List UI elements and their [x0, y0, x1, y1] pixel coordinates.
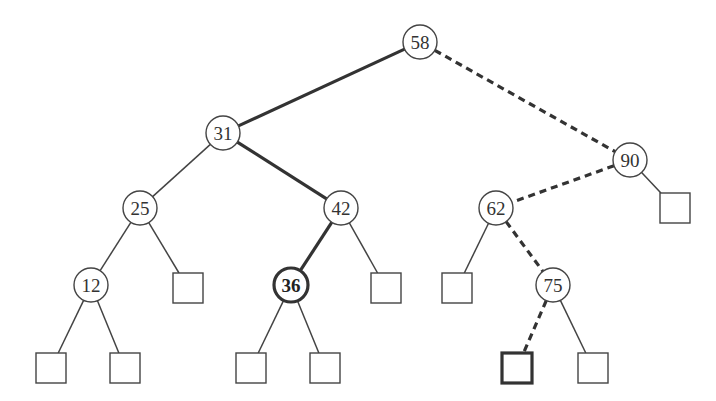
node-key-label: 62 — [487, 198, 506, 219]
leaf-square — [660, 193, 690, 223]
leaf-square — [110, 353, 140, 383]
bst-diagram: 583190254262123675 — [0, 0, 716, 401]
edge-n58-n31-bold — [238, 49, 404, 126]
edge-n75-l75r — [560, 300, 585, 353]
external-leaf-node — [310, 353, 340, 383]
external-leaf-node — [578, 353, 608, 383]
external-leaf-node — [236, 353, 266, 383]
edge-n62-l62l — [464, 223, 488, 273]
edge-n31-n25 — [153, 144, 211, 196]
leaf-square — [173, 273, 203, 303]
edge-n25-l25r — [149, 223, 179, 273]
leaf-square — [236, 353, 266, 383]
node-key-label: 12 — [82, 275, 101, 296]
tree-node-12: 12 — [74, 268, 108, 302]
node-key-label: 75 — [544, 275, 563, 296]
tree-node-36: 36 — [274, 268, 308, 302]
node-key-label: 42 — [332, 198, 351, 219]
edge-n90-n62-dashed — [512, 166, 614, 203]
edge-n42-l42r — [349, 223, 377, 273]
leaf-square — [310, 353, 340, 383]
node-key-label: 31 — [214, 123, 233, 144]
node-key-label: 58 — [411, 32, 430, 53]
tree-node-62: 62 — [479, 191, 513, 225]
edge-n12-l12r — [97, 301, 118, 353]
tree-node-31: 31 — [206, 116, 240, 150]
leaf-square — [578, 353, 608, 383]
edge-n58-n90-dashed — [435, 50, 615, 151]
leaf-square — [502, 353, 532, 383]
edge-n12-l12l — [58, 300, 83, 353]
edge-n75-l75l-dashed — [524, 301, 547, 353]
edge-n90-l90r — [642, 172, 661, 193]
node-key-label: 90 — [621, 150, 640, 171]
external-leaf-node — [371, 273, 401, 303]
edge-n25-n12 — [100, 222, 131, 270]
external-leaf-node — [660, 193, 690, 223]
leaf-square — [36, 353, 66, 383]
leaf-square — [442, 273, 472, 303]
external-leaf-node — [442, 273, 472, 303]
tree-node-25: 25 — [123, 191, 157, 225]
nodes-layer: 583190254262123675 — [36, 25, 690, 383]
external-leaf-node — [173, 273, 203, 303]
leaf-square — [371, 273, 401, 303]
tree-node-75: 75 — [536, 268, 570, 302]
edge-n36-l36r — [297, 301, 318, 353]
node-key-label: 25 — [131, 198, 150, 219]
node-key-label: 36 — [282, 275, 301, 296]
edge-n36-l36l — [258, 300, 283, 353]
external-leaf-node — [36, 353, 66, 383]
edge-n42-n36-bold — [300, 222, 331, 270]
edge-n31-n42-bold — [237, 142, 326, 199]
tree-canvas: 583190254262123675 — [0, 0, 716, 401]
external-leaf-node — [502, 353, 532, 383]
tree-node-42: 42 — [324, 191, 358, 225]
tree-node-90: 90 — [613, 143, 647, 177]
tree-node-58: 58 — [403, 25, 437, 59]
external-leaf-node — [110, 353, 140, 383]
edge-n62-n75-dashed — [506, 222, 543, 272]
